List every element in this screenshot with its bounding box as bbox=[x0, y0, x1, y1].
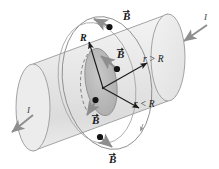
current-arrow-right bbox=[184, 25, 207, 41]
field-point-bottom bbox=[97, 134, 112, 147]
label-radius-R: R bbox=[80, 33, 87, 43]
field-point-top bbox=[94, 19, 113, 30]
diagram-canvas bbox=[0, 0, 219, 169]
field-point-dot-lower-left bbox=[92, 97, 98, 103]
label-current-left: I bbox=[27, 106, 30, 115]
label-b-inner: B bbox=[117, 49, 124, 60]
cylinder-left-end-cap bbox=[16, 64, 50, 151]
label-b-bottom: B bbox=[109, 154, 116, 165]
label-current-right: I bbox=[204, 13, 207, 22]
label-r-greater-than-R: r > R bbox=[143, 55, 164, 65]
field-point-dot-inner bbox=[114, 66, 120, 72]
label-b-top-text: B bbox=[123, 10, 130, 22]
label-b-lower-left-text: B bbox=[92, 114, 99, 126]
label-r-less-than-R: r < R bbox=[134, 100, 155, 110]
field-point-dot-top bbox=[106, 24, 112, 30]
field-point-dot-bottom bbox=[97, 134, 103, 140]
label-b-bottom-text: B bbox=[109, 153, 116, 165]
label-b-top: B bbox=[123, 11, 130, 22]
label-b-lower-left: B bbox=[92, 115, 99, 126]
label-b-inner-text: B bbox=[117, 48, 124, 60]
physics-figure-magnetic-field-cylinder: B B B bbox=[0, 0, 219, 169]
